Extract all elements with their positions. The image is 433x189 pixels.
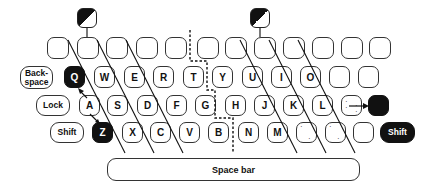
top-row-key-7 (225, 37, 247, 59)
comma-dots: · (300, 124, 303, 130)
key-y: Y (212, 66, 233, 88)
top-row-key-11 (341, 37, 363, 59)
lock-key: Lock (36, 95, 70, 116)
key-q: Q (64, 66, 85, 88)
key-i: I (271, 66, 292, 88)
key-m: M (267, 122, 288, 143)
keyboard-diagram: Back- space Q W E R T Y U I O Lock A S D… (0, 0, 433, 189)
key-b: B (208, 122, 229, 143)
key-blank-q-1 (329, 66, 350, 88)
top-row-key-10 (312, 37, 334, 59)
key-t: T (183, 66, 204, 88)
key-v: V (179, 122, 200, 143)
key-j: J (254, 95, 275, 116)
key-d: D (137, 95, 158, 116)
shift-key-left: Shift (50, 122, 84, 143)
period-dots-2: · (337, 136, 340, 142)
period-dots: · (329, 124, 332, 130)
key-slash (353, 122, 374, 143)
key-w: W (94, 66, 115, 88)
key-blank-q-2 (358, 66, 379, 88)
key-x: X (122, 122, 143, 143)
top-row-key-4 (136, 37, 158, 59)
top-row-key-2 (77, 37, 99, 59)
key-u: U (242, 66, 263, 88)
top-row-key-1 (47, 37, 69, 59)
key-e: E (124, 66, 145, 88)
key-r: R (153, 66, 174, 88)
key-o: O (300, 66, 321, 88)
shift-key-right: Shift (380, 122, 415, 143)
top-row-key-12 (369, 37, 391, 59)
half-shaded-key-left (77, 8, 97, 28)
key-n: N (238, 122, 259, 143)
key-h: H (225, 95, 246, 116)
top-row-key-9 (283, 37, 305, 59)
key-a: A (79, 95, 100, 116)
key-s: S (107, 95, 128, 116)
top-row-key-5 (165, 37, 187, 59)
key-f: F (166, 95, 187, 116)
semicolon-dots: ·· (345, 99, 348, 111)
top-row-key-6 (197, 37, 219, 59)
top-row-key-8 (254, 37, 276, 59)
key-k: K (283, 95, 304, 116)
key-highlighted-right (368, 95, 389, 116)
half-shaded-key-right (250, 8, 270, 28)
backspace-key: Back- space (20, 66, 53, 89)
key-z: Z (92, 122, 113, 143)
key-g: G (195, 95, 216, 116)
key-l: L (312, 95, 333, 116)
comma-dots-2: · (308, 136, 311, 142)
semicolon-dots-2: ·· (355, 103, 358, 115)
space-bar: Space bar (107, 158, 360, 181)
top-row-key-3 (106, 37, 128, 59)
key-c: C (150, 122, 171, 143)
